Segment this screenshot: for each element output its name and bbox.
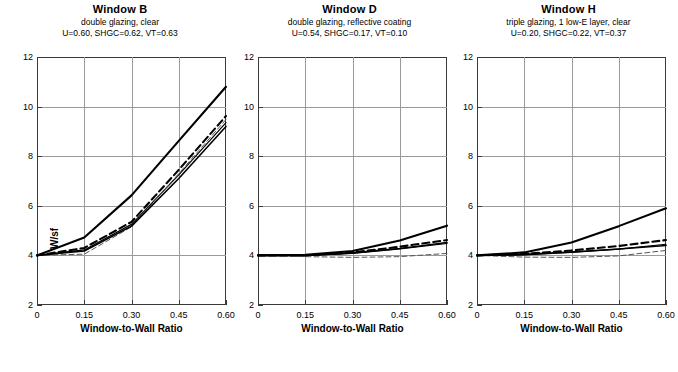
y-tick-label: 8 bbox=[249, 151, 254, 161]
y-tick-mark bbox=[37, 305, 42, 306]
series-line-thin-solid bbox=[37, 126, 226, 255]
y-tick-label: 12 bbox=[463, 52, 473, 62]
chart-panel-window-h: Window H triple glazing, 1 low-E layer, … bbox=[459, 0, 678, 372]
x-tick-label: 0.45 bbox=[610, 310, 628, 320]
y-tick-label: 6 bbox=[468, 201, 473, 211]
chart-panel-window-d: Window D double glazing, reflective coat… bbox=[240, 0, 459, 372]
x-tick-label: 0.30 bbox=[563, 310, 581, 320]
series-line-thick-solid bbox=[258, 226, 447, 256]
x-tick-label: 0.30 bbox=[123, 310, 141, 320]
x-tick-label: 0.60 bbox=[217, 310, 235, 320]
panel-subtitle: double glazing, clear bbox=[0, 17, 240, 28]
y-axis-label: W/sf bbox=[49, 228, 60, 249]
y-tick-label: 12 bbox=[244, 52, 254, 62]
x-tick-label: 0 bbox=[255, 310, 260, 320]
y-tick-label: 4 bbox=[28, 250, 33, 260]
x-tick-label: 0 bbox=[34, 310, 39, 320]
panel-title-block: Window D double glazing, reflective coat… bbox=[240, 3, 459, 39]
y-tick-label: 4 bbox=[249, 250, 254, 260]
y-tick-label: 10 bbox=[244, 102, 254, 112]
x-axis-label: Window-to-Wall Ratio bbox=[477, 323, 666, 334]
y-tick-label: 8 bbox=[468, 151, 473, 161]
x-tick-mark bbox=[447, 300, 448, 305]
series-line-medium-solid bbox=[37, 123, 226, 256]
x-axis-label: Window-to-Wall Ratio bbox=[258, 323, 447, 334]
x-tick-label: 0.15 bbox=[515, 310, 533, 320]
series-lines bbox=[477, 57, 666, 305]
series-lines bbox=[258, 57, 447, 305]
figure-window-energy-panels: Window B double glazing, clear U=0.60, S… bbox=[0, 0, 678, 372]
panel-subtitle: double glazing, reflective coating bbox=[240, 17, 459, 28]
y-tick-label: 2 bbox=[468, 300, 473, 310]
y-tick-label: 2 bbox=[249, 300, 254, 310]
panel-title-block: Window H triple glazing, 1 low-E layer, … bbox=[459, 3, 678, 39]
x-axis-label: Window-to-Wall Ratio bbox=[37, 323, 226, 334]
y-tick-label: 4 bbox=[468, 250, 473, 260]
series-line-thick-dashed bbox=[37, 116, 226, 255]
panel-subtitle: triple glazing, 1 low-E layer, clear bbox=[459, 17, 678, 28]
y-tick-label: 10 bbox=[463, 102, 473, 112]
y-tick-mark bbox=[477, 305, 482, 306]
x-tick-label: 0.15 bbox=[296, 310, 314, 320]
plot-area: 2468101200.150.300.450.60 Window-to-Wall… bbox=[477, 57, 666, 305]
y-tick-label: 8 bbox=[28, 151, 33, 161]
y-tick-label: 6 bbox=[249, 201, 254, 211]
panel-title: Window H bbox=[459, 3, 678, 16]
y-tick-label: 12 bbox=[23, 52, 33, 62]
plot-area: 2468101200.150.300.450.60 Window-to-Wall… bbox=[258, 57, 447, 305]
x-tick-label: 0.60 bbox=[657, 310, 675, 320]
panel-title: Window D bbox=[240, 3, 459, 16]
y-tick-label: 2 bbox=[28, 300, 33, 310]
y-tick-label: 10 bbox=[23, 102, 33, 112]
series-lines bbox=[37, 57, 226, 305]
x-tick-label: 0.45 bbox=[391, 310, 409, 320]
x-tick-mark bbox=[666, 300, 667, 305]
x-tick-label: 0.30 bbox=[344, 310, 362, 320]
x-tick-label: 0 bbox=[474, 310, 479, 320]
y-tick-mark bbox=[258, 305, 263, 306]
panel-title: Window B bbox=[0, 3, 240, 16]
x-tick-label: 0.60 bbox=[438, 310, 456, 320]
y-tick-label: 6 bbox=[28, 201, 33, 211]
series-line-thick-solid bbox=[37, 87, 226, 256]
x-tick-mark bbox=[226, 300, 227, 305]
x-tick-label: 0.45 bbox=[170, 310, 188, 320]
panel-properties: U=0.20, SHGC=0.22, VT=0.37 bbox=[459, 28, 678, 39]
series-line-thin-dashed bbox=[37, 120, 226, 256]
panel-properties: U=0.60, SHGC=0.62, VT=0.63 bbox=[0, 28, 240, 39]
panel-title-block: Window B double glazing, clear U=0.60, S… bbox=[0, 3, 240, 39]
x-tick-label: 0.15 bbox=[75, 310, 93, 320]
plot-area: 2468101200.150.300.450.60 W/sf Window-to… bbox=[37, 57, 226, 305]
chart-panel-window-b: Window B double glazing, clear U=0.60, S… bbox=[0, 0, 240, 372]
panel-properties: U=0.54, SHGC=0.17, VT=0.10 bbox=[240, 28, 459, 39]
